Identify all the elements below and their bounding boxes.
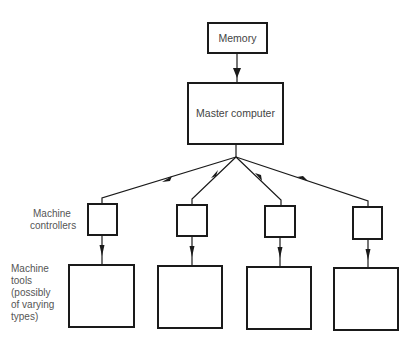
branch-connectors <box>102 157 368 207</box>
tools-label-line4: of varying <box>11 299 54 310</box>
arrow-down-icon <box>233 68 241 78</box>
tools-label-line1: Machine <box>11 263 49 274</box>
master-computer-label: Master computer <box>196 107 275 119</box>
controller-1 <box>88 204 117 235</box>
controllers-label-line1: Machine <box>33 208 71 219</box>
arrow-down-icon <box>366 249 371 260</box>
arrow-icon <box>255 173 262 181</box>
tools-label-line2: tools <box>11 275 32 286</box>
controller-2 <box>177 205 207 236</box>
tool-3 <box>247 267 311 329</box>
tool-2 <box>158 266 222 328</box>
arrow-down-icon <box>100 245 105 256</box>
machine-tools <box>69 265 398 330</box>
controllers-label-line2: controllers <box>30 220 76 231</box>
tool-4 <box>334 268 398 330</box>
tools-label-line5: types) <box>11 311 38 322</box>
memory-to-master-connector <box>233 53 241 83</box>
tools-label-line3: (possibly <box>11 287 50 298</box>
controller-3 <box>265 206 295 237</box>
arrow-down-icon <box>278 247 283 258</box>
controller-4 <box>353 207 382 239</box>
machine-controllers <box>88 204 382 239</box>
tool-1 <box>69 265 134 327</box>
arrow-down-icon <box>190 246 195 257</box>
memory-node: Memory <box>208 23 267 53</box>
controller-to-tool-connectors <box>100 235 371 268</box>
memory-label: Memory <box>219 32 258 44</box>
network-diagram: Memory Master computer <box>0 0 419 341</box>
master-computer-node: Master computer <box>188 83 283 144</box>
